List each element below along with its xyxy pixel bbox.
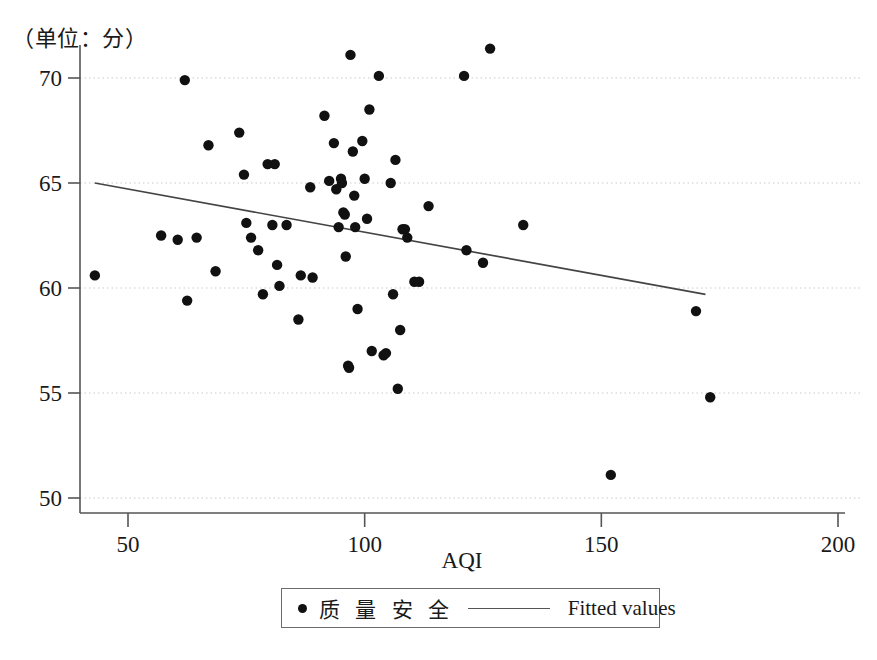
scatter-point — [414, 277, 424, 287]
scatter-point — [348, 146, 358, 156]
scatter-point — [485, 43, 495, 53]
scatter-point — [296, 270, 306, 280]
scatter-point — [606, 470, 616, 480]
scatter-points-group — [90, 43, 716, 480]
scatter-point — [324, 176, 334, 186]
scatter-point — [423, 201, 433, 211]
scatter-point — [362, 214, 372, 224]
chart-legend: 质 量 安 全 Fitted values — [281, 588, 660, 628]
scatter-point — [173, 235, 183, 245]
scatter-point — [359, 174, 369, 184]
scatter-point — [246, 232, 256, 242]
scatter-point — [180, 75, 190, 85]
scatter-point — [239, 169, 249, 179]
scatter-point — [340, 209, 350, 219]
scatter-point — [386, 178, 396, 188]
scatter-point — [274, 281, 284, 291]
filled-circle-icon — [298, 604, 307, 613]
scatter-point — [350, 222, 360, 232]
scatter-point — [341, 251, 351, 261]
scatter-point — [395, 325, 405, 335]
scatter-point — [272, 260, 282, 270]
scatter-point — [388, 289, 398, 299]
x-tick-label-200: 200 — [821, 532, 856, 557]
legend-entry-scatter: 质 量 安 全 — [298, 593, 454, 623]
y-tick-label-60: 60 — [39, 276, 62, 301]
scatter-point — [258, 289, 268, 299]
scatter-point — [191, 232, 201, 242]
scatter-point — [305, 182, 315, 192]
plot-canvas: 5055606570 50100150200 AQI — [0, 0, 877, 660]
legend-line-label: Fitted values — [568, 596, 676, 621]
fitted-values-line — [95, 183, 706, 294]
scatter-point — [367, 346, 377, 356]
scatter-point — [344, 363, 354, 373]
solid-line-icon — [468, 608, 550, 609]
scatter-point — [393, 384, 403, 394]
scatter-point — [461, 245, 471, 255]
scatter-point — [374, 71, 384, 81]
scatter-point — [333, 222, 343, 232]
scatter-point — [270, 159, 280, 169]
legend-scatter-label: 质 量 安 全 — [319, 593, 454, 623]
axes-group — [80, 45, 845, 513]
scatter-point — [402, 232, 412, 242]
scatter-point — [345, 50, 355, 60]
scatter-point — [319, 111, 329, 121]
x-tick-group: 50100150200 — [117, 513, 856, 557]
scatter-point — [234, 127, 244, 137]
legend-entry-line: Fitted values — [454, 596, 676, 621]
scatter-point — [459, 71, 469, 81]
scatter-point — [267, 220, 277, 230]
fit-line-segment — [95, 183, 706, 294]
gridlines-group — [80, 78, 860, 498]
scatter-point — [156, 230, 166, 240]
scatter-point — [364, 104, 374, 114]
y-tick-group: 5055606570 — [39, 66, 80, 511]
scatter-point — [518, 220, 528, 230]
scatter-point — [337, 178, 347, 188]
y-tick-label-65: 65 — [39, 171, 62, 196]
x-tick-label-100: 100 — [347, 532, 382, 557]
y-tick-label-50: 50 — [39, 486, 62, 511]
x-axis-title: AQI — [442, 548, 483, 573]
scatter-point — [241, 218, 251, 228]
x-tick-label-50: 50 — [117, 532, 140, 557]
scatter-point — [329, 138, 339, 148]
scatter-point — [705, 392, 715, 402]
scatter-point — [478, 258, 488, 268]
scatter-point — [90, 270, 100, 280]
scatter-point — [349, 190, 359, 200]
scatter-point — [357, 136, 367, 146]
scatter-point — [293, 314, 303, 324]
scatter-point — [210, 266, 220, 276]
scatter-point — [203, 140, 213, 150]
scatter-point — [352, 304, 362, 314]
scatter-point — [691, 306, 701, 316]
scatter-plot-figure: （单位：分） 5055606570 50100150200 AQI 质 量 安 … — [0, 0, 877, 660]
x-tick-label-150: 150 — [584, 532, 619, 557]
scatter-point — [390, 155, 400, 165]
scatter-point — [281, 220, 291, 230]
y-tick-label-55: 55 — [39, 381, 62, 406]
scatter-point — [307, 272, 317, 282]
scatter-point — [182, 295, 192, 305]
y-tick-label-70: 70 — [39, 66, 62, 91]
scatter-point — [253, 245, 263, 255]
scatter-point — [381, 348, 391, 358]
